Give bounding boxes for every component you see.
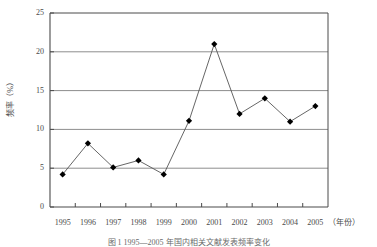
- y-axis-tick-label: 10: [22, 125, 44, 133]
- y-axis-tick-label: 0: [22, 203, 44, 211]
- data-point-marker: [312, 103, 318, 109]
- y-axis-tick-marks: [50, 13, 54, 207]
- y-axis-tick-label: 20: [22, 48, 44, 56]
- plot-frame: [50, 13, 328, 207]
- gridlines: [50, 52, 328, 168]
- data-markers: [60, 41, 319, 178]
- x-axis-unit-label: （年份）: [328, 218, 360, 227]
- y-axis-tick-label: 25: [22, 9, 44, 17]
- data-point-marker: [211, 41, 217, 47]
- data-point-marker: [186, 118, 192, 124]
- data-point-marker: [161, 171, 167, 177]
- y-axis-tick-label: 5: [22, 164, 44, 172]
- data-point-marker: [236, 111, 242, 117]
- x-axis-tick-marks: [75, 203, 302, 207]
- y-axis-tick-label: 15: [22, 87, 44, 95]
- y-axis-title: 频率（%）: [6, 70, 15, 126]
- data-line: [63, 44, 316, 174]
- data-point-marker: [135, 157, 141, 163]
- figure-caption: 图 1 1995—2005 年国内相关文献发表频率变化: [0, 238, 377, 247]
